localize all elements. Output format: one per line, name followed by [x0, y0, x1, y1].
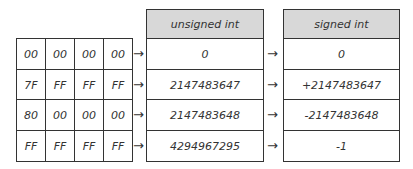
arrow-icon: → [267, 108, 278, 121]
unsigned-value: 0 [146, 38, 264, 70]
byte-cell: FF [103, 130, 133, 162]
byte-cell: 7F [16, 69, 46, 101]
unsigned-value: 2147483648 [146, 99, 264, 131]
arrow-icon: → [133, 47, 144, 60]
unsigned-value: 4294967295 [146, 130, 264, 162]
byte-cell: FF [45, 130, 75, 162]
arrow-icon: → [133, 139, 144, 152]
arrow-icon: → [133, 78, 144, 91]
byte-cell: FF [45, 69, 75, 101]
byte-cell: FF [16, 130, 46, 162]
arrow-icon: → [267, 78, 278, 91]
unsigned-value: 2147483647 [146, 69, 264, 101]
byte-cell: 00 [103, 99, 133, 131]
unsigned-header: unsigned int [146, 9, 264, 40]
signed-header: signed int [283, 9, 400, 40]
byte-cell: 00 [16, 38, 46, 70]
byte-cell: 00 [74, 38, 104, 70]
byte-cell: FF [74, 69, 104, 101]
arrow-icon: → [133, 108, 144, 121]
arrow-icon: → [267, 47, 278, 60]
byte-cell: FF [103, 69, 133, 101]
arrow-icon: → [267, 139, 278, 152]
signed-value: -1 [283, 130, 400, 162]
byte-cell: FF [74, 130, 104, 162]
signed-value: -2147483648 [283, 99, 400, 131]
byte-cell: 00 [45, 38, 75, 70]
byte-cell: 00 [45, 99, 75, 131]
byte-cell: 80 [16, 99, 46, 131]
signed-value: +2147483647 [283, 69, 400, 101]
byte-cell: 00 [103, 38, 133, 70]
byte-cell: 00 [74, 99, 104, 131]
signed-value: 0 [283, 38, 400, 70]
